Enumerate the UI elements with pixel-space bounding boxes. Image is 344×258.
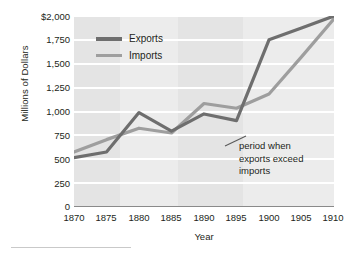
- y-tick-label: 1,250: [26, 83, 70, 93]
- footer-rule: [11, 247, 131, 248]
- annotation-line: period when: [239, 140, 339, 153]
- y-axis-tick-labels: $2,000 1,750 1,500 1,250 1,000 750 500 2…: [24, 0, 70, 215]
- legend-label-exports: Exports: [129, 34, 163, 44]
- y-tick-label: $2,000: [26, 12, 70, 22]
- legend-swatch-exports: [96, 37, 122, 41]
- y-tick-label: 1,000: [26, 107, 70, 117]
- y-tick-label: 1,500: [26, 59, 70, 69]
- legend-swatch-imports: [96, 54, 122, 58]
- legend-item-imports: Imports: [96, 47, 163, 64]
- chart-figure: Millions of Dollars $2,000 1,750 1,500 1…: [0, 0, 344, 258]
- legend-label-imports: Imports: [129, 51, 162, 61]
- chart-annotation: period when exports exceed imports: [239, 140, 339, 178]
- chart-legend: Exports Imports: [96, 30, 163, 64]
- annotation-line: imports: [239, 165, 339, 178]
- y-tick-label: 500: [26, 155, 70, 165]
- y-tick-label: 1,750: [26, 35, 70, 45]
- x-axis-tick-labels: 1870 1875 1880 1885 1890 1895 1900 1905 …: [0, 213, 344, 227]
- y-tick-label: 250: [26, 179, 70, 189]
- annotation-line: exports exceed: [239, 153, 339, 166]
- x-tick-label: 1910: [313, 213, 344, 223]
- legend-item-exports: Exports: [96, 30, 163, 47]
- y-tick-label: 750: [26, 131, 70, 141]
- y-tick-label: 0: [26, 202, 70, 212]
- x-axis-title: Year: [74, 231, 334, 242]
